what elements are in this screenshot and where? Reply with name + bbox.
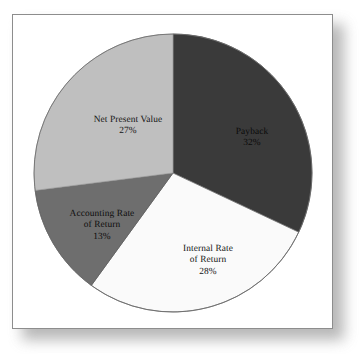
pie-label-payback: Payback 32%	[209, 127, 295, 150]
pie-slice-net-present-value[interactable]	[34, 34, 173, 190]
pie-label-accounting-rate-of-return-percent: 13%	[47, 232, 157, 243]
pie-label-internal-rate-of-return: Internal Rate of Return 28%	[156, 244, 260, 278]
pie-chart: Payback 32% Net Present Value 27% Intern…	[13, 15, 332, 328]
pie-label-internal-rate-of-return-line2: of Return	[156, 255, 260, 266]
pie-label-net-present-value-percent: 27%	[65, 126, 191, 137]
pie-chart-svg	[13, 15, 334, 330]
pie-label-accounting-rate-of-return-line2: of Return	[47, 220, 157, 231]
pie-label-payback-name: Payback	[209, 127, 295, 138]
pie-label-accounting-rate-of-return-line1: Accounting Rate	[47, 209, 157, 220]
page-root: Payback 32% Net Present Value 27% Intern…	[0, 0, 362, 354]
pie-label-internal-rate-of-return-percent: 28%	[156, 267, 260, 278]
pie-label-accounting-rate-of-return: Accounting Rate of Return 13%	[47, 209, 157, 243]
figure-frame: Payback 32% Net Present Value 27% Intern…	[12, 14, 333, 329]
pie-label-payback-percent: 32%	[209, 138, 295, 149]
pie-label-net-present-value-name: Net Present Value	[65, 115, 191, 126]
pie-label-internal-rate-of-return-line1: Internal Rate	[156, 244, 260, 255]
pie-label-net-present-value: Net Present Value 27%	[65, 115, 191, 138]
